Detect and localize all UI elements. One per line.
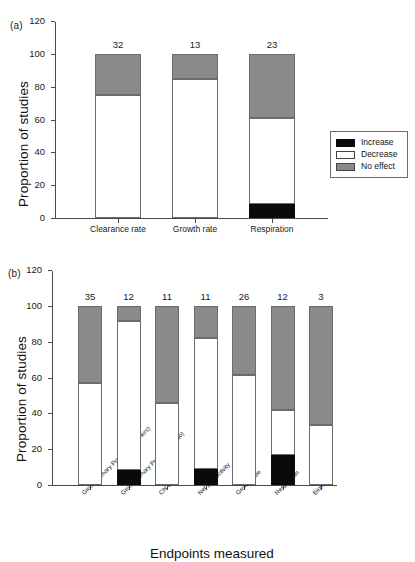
panel-b-bar-count-label: 11: [162, 292, 172, 302]
panel-b-segment-no-effect[interactable]: [117, 306, 141, 321]
panel-a-category-label: Clearance rate: [90, 224, 146, 234]
panel-b-bar-count-label: 11: [201, 292, 211, 302]
panel-b-segment-increase[interactable]: [194, 469, 218, 485]
panel-b-y-tick-label: 80: [31, 336, 42, 347]
panel-a-segment-no-effect[interactable]: [249, 54, 295, 118]
panel-a-y-tick-label: 40: [34, 146, 45, 157]
panel-b-y-tick: 100: [48, 306, 52, 307]
panel-a-bar[interactable]: 23Respiration: [249, 54, 295, 218]
panel-a-y-axis-title: Proportion of studies: [16, 81, 31, 207]
panel-a-y-tick-label: 60: [34, 114, 45, 125]
legend: Increase Decrease No effect: [330, 131, 408, 178]
panel-a-bar-count-label: 32: [113, 40, 124, 50]
panel-b-y-tick: 0: [48, 485, 52, 486]
panel-b-segment-no-effect[interactable]: [271, 306, 295, 410]
legend-label-decrease: Decrease: [361, 150, 397, 159]
panel-a-y-tick-label: 20: [34, 179, 45, 190]
panel-b-y-tick-label: 40: [31, 407, 42, 418]
panel-a-y-tick-label: 100: [29, 48, 45, 59]
legend-label-noeffect: No effect: [361, 162, 395, 171]
panel-b-bar-count-label: 12: [123, 292, 134, 302]
panel-b-x-axis-title: Endpoints measured: [150, 546, 274, 561]
panel-b-segment-decrease[interactable]: [309, 425, 333, 485]
legend-item-decrease: Decrease: [336, 149, 403, 160]
panel-b-y-axis-title: Proportion of studies: [14, 336, 29, 462]
panel-b-y-tick: 60: [48, 378, 52, 379]
panel-b-bar-count-label: 12: [277, 292, 288, 302]
panel-b-y-tick-label: 120: [26, 264, 42, 275]
panel-b-y-tick: 40: [48, 413, 52, 414]
panel-b-segment-decrease[interactable]: [78, 383, 102, 485]
panel-b-bar-count-label: 26: [239, 292, 250, 302]
panel-b-bar[interactable]: 12: [271, 306, 295, 485]
panel-a-x-tick: [272, 219, 273, 223]
panel-a-y-tick-label: 80: [34, 81, 45, 92]
panel-b-segment-decrease[interactable]: [117, 321, 141, 470]
panel-b-segment-no-effect[interactable]: [194, 306, 218, 339]
panel-a-y-axis-line: [55, 22, 56, 219]
panel-a-segment-decrease[interactable]: [249, 118, 295, 204]
panel-b-segment-no-effect[interactable]: [309, 306, 333, 426]
panel-b-bar[interactable]: 3: [309, 306, 333, 485]
panel-a-segment-decrease[interactable]: [172, 79, 218, 218]
panel-a-y-tick: 0: [51, 218, 55, 219]
panel-b-segment-decrease[interactable]: [155, 403, 179, 485]
panel-a-y-tick-label: 0: [40, 212, 45, 223]
panel-a-bar[interactable]: 13Growth rate: [172, 54, 218, 218]
legend-item-noeffect: No effect: [336, 161, 403, 172]
panel-a-segment-decrease[interactable]: [95, 95, 141, 218]
panel-b-segment-decrease[interactable]: [271, 410, 295, 455]
panel-b-segment-decrease[interactable]: [232, 375, 256, 485]
panel-a-y-tick: 120: [51, 21, 55, 22]
panel-b-bar[interactable]: 11: [194, 306, 218, 485]
panel-b-y-tick: 80: [48, 342, 52, 343]
panel-b-plot-area: 020406080100120 Gross Primary Production…: [52, 271, 320, 486]
panel-a-plot-area: 020406080100120 32Clearance rate13Growth…: [55, 22, 310, 219]
panel-b-bar[interactable]: 35: [78, 306, 102, 485]
panel-b-y-tick: 20: [48, 449, 52, 450]
panel-a-category-label: Respiration: [251, 224, 294, 234]
panel-a-bar[interactable]: 32Clearance rate: [95, 54, 141, 218]
legend-swatch-increase-icon: [336, 139, 355, 147]
panel-a-y-tick: 20: [51, 185, 55, 186]
legend-item-increase: Increase: [336, 137, 403, 148]
panel-b-bar[interactable]: 26: [232, 306, 256, 485]
panel-b-segment-increase[interactable]: [271, 455, 295, 485]
panel-a-y-tick-label: 120: [29, 15, 45, 26]
panel-a-category-label: Growth rate: [173, 224, 217, 234]
panel-b-y-axis-line: [52, 271, 53, 486]
panel-b-bar-count-label: 3: [318, 292, 323, 302]
panel-b-y-tick-label: 0: [37, 479, 42, 490]
panel-a-x-tick: [195, 219, 196, 223]
panel-b-segment-no-effect[interactable]: [78, 306, 102, 383]
legend-swatch-decrease-icon: [336, 151, 355, 159]
panel-a: (a) Proportion of studies 02040608010012…: [0, 0, 415, 262]
panel-a-x-axis-line: [55, 218, 328, 219]
panel-a-segment-increase[interactable]: [249, 204, 295, 218]
panel-a-tag: (a): [10, 21, 23, 31]
panel-b-y-tick-label: 100: [26, 300, 42, 311]
panel-a-bar-count-label: 13: [190, 40, 201, 50]
panel-b-y-tick-label: 20: [31, 443, 42, 454]
legend-swatch-noeffect-icon: [336, 163, 355, 171]
panel-a-y-tick: 40: [51, 152, 55, 153]
panel-a-x-tick: [118, 219, 119, 223]
panel-a-segment-no-effect[interactable]: [95, 54, 141, 95]
legend-label-increase: Increase: [361, 138, 394, 147]
panel-b-segment-decrease[interactable]: [194, 338, 218, 468]
panel-b-bar[interactable]: 11: [155, 306, 179, 485]
panel-a-y-tick: 100: [51, 54, 55, 55]
panel-b-segment-increase[interactable]: [117, 470, 141, 485]
panel-b-bar-count-label: 35: [85, 292, 96, 302]
panel-a-bar-count-label: 23: [267, 40, 278, 50]
panel-a-segment-no-effect[interactable]: [172, 54, 218, 79]
figure-root: (a) Proportion of studies 02040608010012…: [0, 0, 415, 562]
panel-b-y-tick-label: 60: [31, 372, 42, 383]
panel-b-tag: (b): [8, 269, 21, 279]
panel-b-bar[interactable]: 12: [117, 306, 141, 485]
panel-b-y-tick: 120: [48, 270, 52, 271]
panel-b: (b) Proportion of studies 02040608010012…: [0, 262, 415, 562]
panel-b-segment-no-effect[interactable]: [155, 306, 179, 404]
panel-a-y-tick: 60: [51, 120, 55, 121]
panel-b-segment-no-effect[interactable]: [232, 306, 256, 375]
